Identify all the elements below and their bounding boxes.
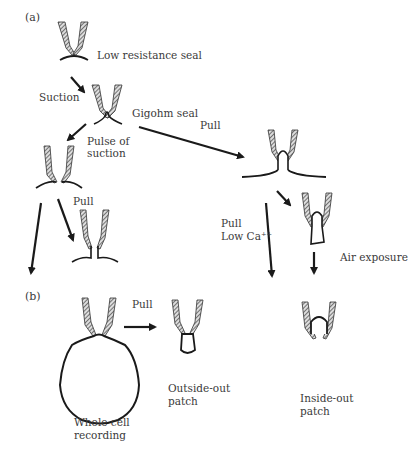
pipette-pulse-suction bbox=[36, 146, 82, 188]
label-air-exposure: Air exposure bbox=[340, 251, 408, 264]
pipette-gigohm-seal bbox=[92, 85, 122, 124]
label-pull-low-ca-2: Low Ca⁺⁺ bbox=[221, 230, 272, 243]
label-pulse-of-2: suction bbox=[87, 147, 126, 160]
label-suction: Suction bbox=[39, 91, 80, 104]
label-pull-left: Pull bbox=[73, 195, 94, 208]
label-outside-out-1: Outside-out bbox=[168, 382, 230, 395]
panel-label-b: (b) bbox=[25, 290, 41, 303]
arrow-to-whole-cell bbox=[31, 203, 41, 273]
arrow-pull-left bbox=[58, 199, 73, 240]
panel-label-a: (a) bbox=[25, 11, 40, 24]
pipette-whole-cell bbox=[60, 298, 139, 424]
label-pull-b: Pull bbox=[132, 298, 153, 311]
pipette-low-resistance-seal bbox=[58, 22, 88, 60]
label-whole-cell-2: recording bbox=[74, 429, 126, 442]
arrow-pulse-suction bbox=[68, 124, 86, 140]
label-inside-out-1: Inside-out bbox=[300, 392, 353, 405]
label-pull-top: Pull bbox=[200, 119, 221, 132]
label-outside-out-2: patch bbox=[168, 395, 198, 408]
label-gigohm-seal: Gigohm seal bbox=[132, 107, 198, 120]
label-pull-low-ca-1: Pull bbox=[221, 217, 242, 230]
label-low-resistance-seal: Low resistance seal bbox=[97, 49, 202, 62]
pipette-inside-out bbox=[302, 302, 336, 339]
arrow-to-vesicle bbox=[277, 191, 290, 205]
pipette-excised-vesicle bbox=[302, 193, 332, 244]
label-whole-cell-1: Whole cell bbox=[74, 416, 130, 429]
pipette-pull-left bbox=[72, 210, 118, 262]
arrow-suction bbox=[71, 77, 84, 92]
arrow-pull-top bbox=[139, 127, 243, 157]
pipette-vesicle bbox=[242, 130, 326, 177]
pipette-outside-out bbox=[172, 300, 203, 353]
label-inside-out-2: patch bbox=[300, 405, 330, 418]
